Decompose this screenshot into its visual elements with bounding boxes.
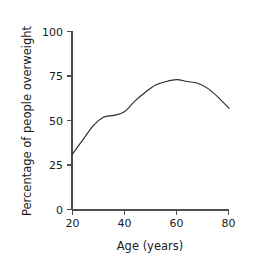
- y-tick-label-25: 25: [49, 159, 63, 172]
- x-tick-label-20: 20: [66, 217, 80, 230]
- x-axis-title: Age (years): [117, 239, 184, 253]
- y-tick-label-0: 0: [56, 204, 63, 217]
- chart-figure: 100 75 50 25 0 20 40 60 80 Age (years) P…: [0, 0, 254, 271]
- y-tick-label-50: 50: [49, 115, 63, 128]
- x-tick-label-60: 60: [170, 217, 184, 230]
- line-chart: 100 75 50 25 0 20 40 60 80 Age (years) P…: [0, 0, 254, 271]
- y-tick-label-100: 100: [42, 26, 63, 39]
- x-tick-label-40: 40: [118, 217, 132, 230]
- y-tick-label-75: 75: [49, 70, 63, 83]
- x-tick-label-80: 80: [222, 217, 236, 230]
- y-axis-title: Percentage of people overweight: [20, 25, 34, 216]
- data-curve-percentage-overweight: [72, 80, 229, 155]
